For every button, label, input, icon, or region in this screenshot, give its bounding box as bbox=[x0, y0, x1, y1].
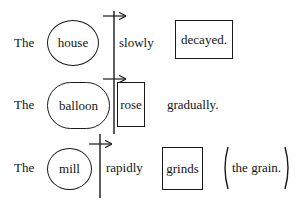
subject-ellipse: balloon bbox=[47, 82, 110, 129]
determiner: The bbox=[14, 98, 34, 112]
determiner: The bbox=[14, 36, 34, 50]
close-paren-icon bbox=[284, 146, 291, 190]
subject-label: balloon bbox=[59, 98, 98, 114]
subject-label: mill bbox=[59, 161, 80, 177]
adverb: slowly bbox=[119, 36, 154, 50]
verb-label: decayed. bbox=[181, 32, 227, 48]
subject-ellipse: house bbox=[47, 20, 99, 66]
subject-label: house bbox=[58, 35, 88, 51]
verb-box: grinds bbox=[162, 147, 203, 190]
object-parentheses: the grain. bbox=[222, 146, 291, 190]
verb-box: rose bbox=[117, 82, 145, 127]
adverb: gradually. bbox=[167, 98, 219, 112]
object-label: the grain. bbox=[232, 160, 281, 176]
verb-label: grinds bbox=[166, 161, 199, 177]
determiner: The bbox=[14, 161, 34, 175]
verb-box: decayed. bbox=[175, 20, 233, 59]
verb-label: rose bbox=[120, 97, 142, 113]
adverb: rapidly bbox=[106, 161, 143, 175]
subject-ellipse: mill bbox=[47, 148, 92, 190]
open-paren-icon bbox=[222, 146, 229, 190]
